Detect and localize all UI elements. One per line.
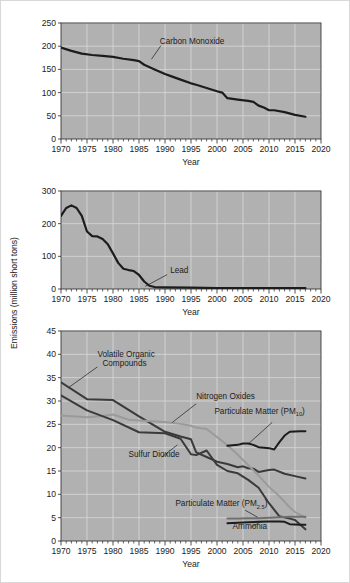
x-tick-label: 2010	[259, 546, 278, 556]
x-tick-label: 1985	[129, 144, 148, 154]
x-tick-label: 1975	[77, 294, 96, 304]
y-tick-label: 40	[46, 349, 56, 359]
y-tick-label: 200	[42, 41, 57, 51]
x-axis-title: Year	[182, 157, 200, 167]
y-tick-label: 100	[42, 251, 57, 261]
x-tick-label: 1970	[51, 546, 70, 556]
series-label-ammonia: Ammonia	[233, 522, 268, 531]
figure-svg: 0501001502002501970197519801985199019952…	[1, 1, 350, 583]
x-tick-label: 2000	[207, 294, 226, 304]
x-tick-label: 1985	[129, 546, 148, 556]
emissions-trends-figure: 0501001502002501970197519801985199019952…	[0, 0, 350, 583]
x-tick-label: 2015	[285, 546, 304, 556]
series-label-nitrogen-oxides: Nitrogen Oxides	[196, 392, 255, 401]
x-tick-label: 2015	[285, 144, 304, 154]
x-tick-label: 2000	[207, 144, 226, 154]
x-tick-label: 2005	[233, 144, 252, 154]
x-tick-label: 1990	[155, 546, 174, 556]
x-tick-label: 2010	[259, 144, 278, 154]
y-tick-label: 250	[42, 18, 57, 28]
x-tick-label: 1985	[129, 294, 148, 304]
y-tick-label: 35	[46, 373, 56, 383]
x-tick-label: 1970	[51, 144, 70, 154]
x-tick-label: 1975	[77, 144, 96, 154]
chart-lead: 0100200300197019751980198519901995200020…	[42, 186, 331, 317]
series-label-particulate-matter-pm10: Particulate Matter (PM10)	[214, 407, 305, 417]
x-tick-label: 2020	[311, 546, 330, 556]
x-tick-label: 1980	[103, 144, 122, 154]
x-axis-title: Year	[182, 559, 200, 569]
x-tick-label: 2005	[233, 294, 252, 304]
y-tick-label: 25	[46, 419, 56, 429]
y-tick-label: 20	[46, 443, 56, 453]
x-axis-title: Year	[182, 307, 200, 317]
y-tick-label: 150	[42, 64, 57, 74]
y-tick-label: 0	[51, 284, 56, 294]
x-tick-label: 1995	[181, 294, 200, 304]
y-tick-label: 100	[42, 88, 57, 98]
series-label-lead: Lead	[170, 266, 189, 275]
x-tick-label: 1980	[103, 546, 122, 556]
y-tick-label: 0	[51, 536, 56, 546]
y-tick-label: 50	[46, 111, 56, 121]
x-tick-label: 2020	[311, 144, 330, 154]
series-label-volatile-organic-compounds: Volatile OrganicCompounds	[97, 350, 154, 368]
series-label-sulfur-dioxide: Sulfur Dioxide	[129, 450, 180, 459]
series-label-carbon-monoxide: Carbon Monoxide	[160, 37, 225, 46]
y-tick-label: 30	[46, 396, 56, 406]
x-tick-label: 1995	[181, 144, 200, 154]
x-tick-label: 1975	[77, 546, 96, 556]
x-tick-label: 1990	[155, 294, 174, 304]
x-tick-label: 2010	[259, 294, 278, 304]
y-tick-label: 5	[51, 513, 56, 523]
x-tick-label: 2000	[207, 546, 226, 556]
x-tick-label: 2005	[233, 546, 252, 556]
x-tick-label: 1970	[51, 294, 70, 304]
chart-multi-pollutant: 0510152025303540451970197519801985199019…	[46, 326, 330, 569]
x-tick-label: 2020	[311, 294, 330, 304]
y-tick-label: 200	[42, 219, 57, 229]
x-tick-label: 2015	[285, 294, 304, 304]
y-tick-label: 10	[46, 489, 56, 499]
series-label-particulate-matter-pm2-5: Particulate Matter (PM2.5)	[175, 499, 267, 509]
y-tick-label: 300	[42, 186, 57, 196]
y-tick-label: 45	[46, 326, 56, 336]
x-tick-label: 1995	[181, 546, 200, 556]
y-tick-label: 0	[51, 134, 56, 144]
y-axis-title: Emissions (million short tons)	[9, 237, 19, 349]
x-tick-label: 1980	[103, 294, 122, 304]
y-tick-label: 15	[46, 466, 56, 476]
x-tick-label: 1990	[155, 144, 174, 154]
chart-carbon-monoxide: 0501001502002501970197519801985199019952…	[42, 18, 331, 167]
